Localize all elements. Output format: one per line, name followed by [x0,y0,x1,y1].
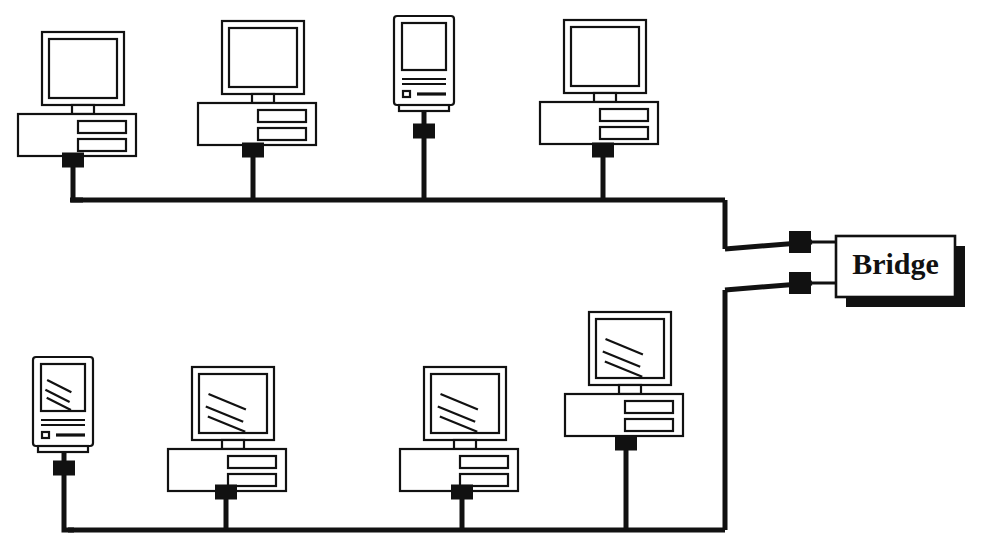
workstation-1-drive-slot-1 [78,121,126,133]
bridge-label: Bridge [852,247,939,280]
workstation-2-screen [229,28,297,87]
workstation-1-screen [49,39,117,98]
workstation-2[interactable] [198,21,316,145]
workstation-6-drive-slot-2 [228,474,276,486]
bus-tap-workstation-6[interactable] [215,485,237,500]
workstation-7[interactable] [400,367,518,491]
workstation-3-foot [399,105,449,111]
workstation-7-drive-slot-1 [460,456,508,468]
workstation-4[interactable] [540,20,658,144]
bus-tap-workstation-4[interactable] [592,143,614,158]
workstation-1-drive-slot-2 [78,139,126,151]
workstation-8-monitor-stand [619,385,641,394]
port-lower-segment[interactable] [789,272,811,294]
workstation-5-foot [38,446,88,452]
bridge-device[interactable]: Bridge [836,236,965,307]
workstation-7-drive-slot-2 [460,474,508,486]
drop-elbow-workstation-5 [64,468,74,530]
workstation-8-drive-slot-2 [625,419,673,431]
port-upper-segment[interactable] [789,231,811,253]
network-diagram-canvas: Bridge [0,0,983,558]
workstation-5[interactable] [33,357,93,452]
workstation-8-drive-slot-1 [625,401,673,413]
nodes-layer [18,16,811,500]
bus-tap-workstation-3[interactable] [413,124,435,139]
workstation-3-power-led [403,91,410,97]
workstation-6-monitor-stand [222,440,244,449]
workstation-6-drive-slot-1 [228,456,276,468]
workstation-4-monitor-stand [594,93,616,102]
workstation-2-drive-slot-2 [258,128,306,140]
workstation-4-drive-slot-2 [600,127,648,139]
workstation-3-screen [402,23,446,70]
workstation-7-monitor-stand [454,440,476,449]
workstation-1[interactable] [18,32,136,156]
workstation-2-monitor-stand [252,94,274,103]
workstation-5-power-led [42,432,49,438]
workstation-4-drive-slot-1 [600,109,648,121]
bus-tap-workstation-5[interactable] [53,461,75,476]
workstation-8[interactable] [565,312,683,436]
bus-tap-workstation-1[interactable] [62,153,84,168]
workstation-6[interactable] [168,367,286,491]
workstation-3[interactable] [394,16,454,111]
workstation-1-monitor-stand [72,105,94,114]
workstation-4-screen [571,27,639,86]
bus-tap-workstation-8[interactable] [615,436,637,451]
network-diagram-svg: Bridge [0,0,983,558]
bus-tap-workstation-7[interactable] [451,485,473,500]
bus-tap-workstation-2[interactable] [242,143,264,158]
workstation-2-drive-slot-1 [258,110,306,122]
